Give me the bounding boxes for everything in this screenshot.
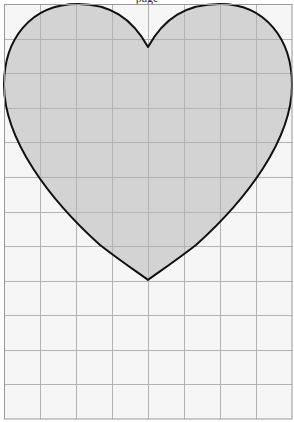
heart-grid-diagram xyxy=(0,0,294,422)
